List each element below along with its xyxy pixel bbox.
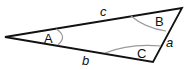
angle-arc-a — [56, 29, 63, 45]
side-label-c: c — [100, 4, 107, 19]
side-label-b: b — [82, 53, 89, 68]
side-label-a: a — [166, 35, 173, 50]
angle-arc-c — [105, 45, 161, 53]
vertex-label-a: A — [44, 31, 53, 46]
vertex-label-b: B — [155, 14, 164, 29]
triangle-diagram: A B C a b c — [0, 0, 190, 70]
vertex-label-c: C — [137, 46, 146, 61]
